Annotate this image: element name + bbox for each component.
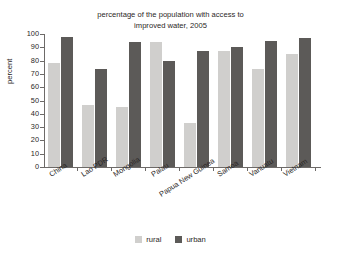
- y-tick-label: 100: [27, 30, 39, 37]
- legend-label-rural: rural: [146, 236, 161, 244]
- bar-chart-figure: percentage of the population with access…: [0, 0, 341, 258]
- y-tick-mark: [40, 101, 44, 102]
- y-tick-mark: [40, 127, 44, 128]
- x-tick-mark: [315, 167, 316, 171]
- x-tick-mark: [213, 167, 214, 171]
- y-tick-mark: [40, 140, 44, 141]
- y-axis-line: [44, 34, 45, 167]
- y-tick-label: 40: [31, 110, 39, 117]
- y-tick-label: 20: [31, 137, 39, 144]
- y-tick-mark: [40, 34, 44, 35]
- bar-urban-lao-pdr: [95, 69, 107, 167]
- legend-item-urban: urban: [175, 236, 205, 244]
- legend-swatch-rural-icon: [135, 236, 142, 243]
- bar-urban-china: [61, 37, 73, 167]
- bar-rural-vietnam: [286, 54, 298, 167]
- x-tick-mark: [179, 167, 180, 171]
- chart-legend: rural urban: [0, 236, 341, 244]
- y-tick-label: 90: [31, 44, 39, 51]
- y-tick-label: 70: [31, 70, 39, 77]
- chart-title: percentage of the population with access…: [0, 10, 341, 31]
- y-tick-label: 30: [31, 123, 39, 130]
- y-tick-label: 80: [31, 57, 39, 64]
- bar-urban-vietnam: [299, 38, 311, 167]
- bar-rural-samoa: [218, 51, 230, 167]
- bar-rural-mongolia: [116, 107, 128, 167]
- bar-urban-vanuatu: [265, 41, 277, 167]
- y-tick-mark: [40, 87, 44, 88]
- bar-rural-vanuatu: [252, 69, 264, 167]
- legend-label-urban: urban: [186, 236, 205, 244]
- x-tick-mark: [77, 167, 78, 171]
- y-tick-label: 60: [31, 83, 39, 90]
- chart-title-line-2: improved water, 2005: [0, 21, 341, 32]
- plot-area: 100 90 80 70 60 50 40 30 20 10 0: [44, 34, 321, 167]
- y-tick-mark: [40, 74, 44, 75]
- y-tick-mark: [40, 61, 44, 62]
- bar-urban-papua-new-guinea: [197, 51, 209, 167]
- legend-swatch-urban-icon: [175, 236, 182, 243]
- y-tick-label: 10: [31, 150, 39, 157]
- bar-urban-samoa: [231, 47, 243, 167]
- y-tick-mark: [40, 114, 44, 115]
- y-tick-mark: [40, 167, 44, 168]
- y-tick-mark: [40, 154, 44, 155]
- bar-rural-papua-new-guinea: [184, 123, 196, 167]
- y-axis-title: percent: [6, 59, 14, 84]
- bar-urban-mongolia: [129, 42, 141, 167]
- y-tick-label: 50: [31, 97, 39, 104]
- bar-rural-palau: [150, 42, 162, 167]
- x-tick-mark: [145, 167, 146, 171]
- bar-rural-lao-pdr: [82, 105, 94, 168]
- bar-rural-china: [48, 63, 60, 167]
- y-tick-label: 0: [35, 163, 39, 170]
- legend-item-rural: rural: [135, 236, 161, 244]
- bar-urban-palau: [163, 61, 175, 167]
- chart-title-line-1: percentage of the population with access…: [0, 10, 341, 21]
- y-tick-mark: [40, 47, 44, 48]
